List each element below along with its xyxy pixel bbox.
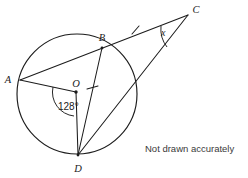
figure-caption: Not drawn accurately [145, 143, 234, 154]
segment-AO [20, 80, 76, 92]
angle-label-x: x [160, 27, 166, 38]
vertex-dot-O [74, 90, 77, 93]
geometry-figure-svg: A B C D O 128° x Not drawn accurately [0, 0, 248, 178]
vertex-dot-D [77, 154, 80, 157]
vertex-label-A: A [4, 74, 12, 85]
vertex-label-O: O [72, 78, 80, 89]
geometry-diagram: A B C D O 128° x Not drawn accurately [0, 0, 248, 178]
vertex-label-B: B [99, 32, 106, 43]
vertex-label-D: D [73, 163, 82, 174]
tick-on-BC [132, 26, 139, 34]
angle-label-128: 128° [58, 101, 79, 112]
vertex-label-C: C [192, 4, 200, 15]
vertex-dot-B [101, 47, 104, 50]
